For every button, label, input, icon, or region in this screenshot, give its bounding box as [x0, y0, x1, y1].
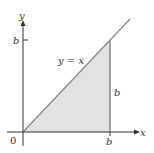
line-label: y = x	[57, 55, 84, 66]
x-axis-label: x	[140, 127, 146, 138]
side-length-label: b	[114, 87, 120, 98]
origin-label: 0	[10, 135, 16, 146]
y-axis-label: y	[18, 10, 25, 21]
diagram-canvas: y x 0 b b y = x b	[0, 0, 154, 153]
x-tick-label: b	[106, 136, 112, 147]
y-tick-label: b	[13, 35, 19, 46]
